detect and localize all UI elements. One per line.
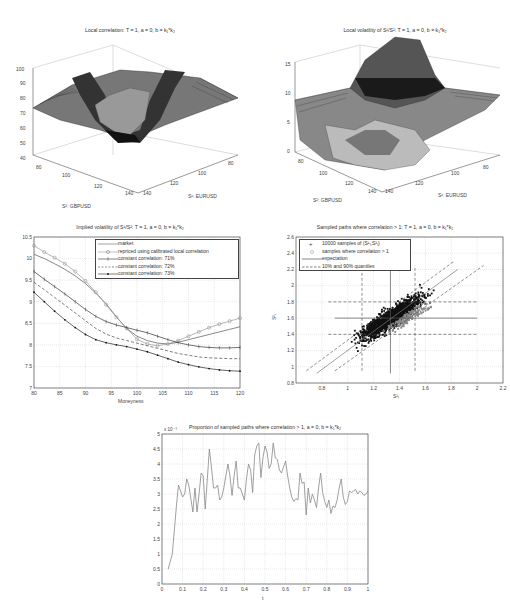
y-tick-label: 1.6 — [287, 315, 294, 321]
x-tick-80: 80 — [298, 158, 304, 164]
y-tick-label: 0.8 — [287, 380, 294, 386]
y-tick-label: 4 — [157, 461, 160, 467]
x-tick-label: 1.8 — [448, 385, 455, 391]
x-tick-label: 0.4 — [241, 586, 248, 592]
z-tick-60: 60 — [20, 125, 26, 131]
z-tick-80: 80 — [20, 95, 26, 101]
y-tick-label: 2 — [291, 282, 294, 288]
y-tick-label: 10 — [26, 255, 32, 261]
y-tick-80: 80 — [228, 160, 234, 166]
x-axis-label: Moneyness — [118, 398, 144, 404]
y-tick-label: 3 — [157, 491, 160, 497]
x-tick-label: 0.2 — [200, 586, 207, 592]
x-tick-140: 140 — [368, 188, 376, 194]
y-tick-80: 80 — [483, 164, 489, 170]
z-tick-70: 70 — [20, 110, 26, 116]
y-tick-label: 1.4 — [287, 331, 294, 337]
local-volatility-panel: Local volatility of S¹/S²: T = 1, a = 0,… — [255, 0, 510, 215]
x-tick-120: 120 — [345, 180, 353, 186]
x-tick-label: 105 — [159, 390, 168, 396]
y-tick-120: 120 — [415, 180, 423, 186]
proportion-panel: Proportion of sampled paths where correl… — [130, 410, 390, 610]
legend-item-expectation: expectation — [300, 255, 410, 263]
y-tick-label: 8 — [29, 342, 32, 348]
legend-item-const-71: constant correlation: 71% — [96, 255, 238, 263]
y-tick-label: 1 — [157, 551, 160, 557]
y-tick-label: 0 — [157, 581, 160, 587]
sampled-paths-panel: Sampled paths where correlation > 1: T =… — [255, 215, 510, 410]
y-tick-label: 2.5 — [153, 506, 160, 512]
x-tick-label: 85 — [57, 390, 63, 396]
svg-text:+: + — [309, 241, 313, 247]
y-tick-label: 7 — [29, 385, 32, 391]
x-tick-120: 120 — [94, 183, 102, 189]
x-tick-label: 1.4 — [396, 385, 403, 391]
x-tick-100: 100 — [62, 172, 70, 178]
proportion-line-chart: 00.10.20.30.40.50.60.70.80.9100.511.522.… — [130, 410, 390, 610]
y-tick-label: 7.5 — [25, 363, 32, 369]
x-tick-label: 0 — [161, 586, 164, 592]
x-tick-140: 140 — [125, 190, 133, 196]
y-tick-label: 9 — [29, 299, 32, 305]
y-tick-label: 8.5 — [25, 320, 32, 326]
x-tick-label: 120 — [236, 390, 245, 396]
y-tick-label: 2.6 — [287, 234, 294, 240]
local-correlation-panel: Local correlation: T = 1, a = 0, b = k₁*… — [0, 0, 255, 215]
y-tick-label: 1.2 — [287, 347, 294, 353]
x-tick-label: 1 — [346, 385, 349, 391]
y-axis-label: S¹: EURUSD — [438, 192, 467, 198]
x-tick-label: 1.2 — [370, 385, 377, 391]
y-tick-label: 1.5 — [153, 536, 160, 542]
legend-item-const-72: constant correlation: 72% — [96, 263, 238, 271]
x-axis-label: S²: GBPUSD — [313, 197, 342, 203]
x-tick-label: 0.9 — [344, 586, 351, 592]
local-correlation-surface-plot — [0, 0, 255, 215]
y-tick-label: 2.4 — [287, 250, 294, 256]
y-tick-label: 0.5 — [153, 566, 160, 572]
scatter-legend: +10000 samples of (S¹ₜ,S²ₜ) samples wher… — [299, 239, 411, 271]
legend-item-repriced: repriced using calibrated local correlat… — [96, 248, 238, 256]
z-tick-90: 90 — [20, 80, 26, 86]
y-tick-100: 100 — [198, 170, 206, 176]
legend-item-samples: +10000 samples of (S¹ₜ,S²ₜ) — [300, 240, 410, 248]
z-tick-5: 5 — [287, 119, 290, 125]
y-tick-120: 120 — [170, 180, 178, 186]
x-tick-label: 1.6 — [422, 385, 429, 391]
z-tick-10: 10 — [285, 90, 291, 96]
x-tick-100: 100 — [319, 170, 327, 176]
legend-item-corr-gt-1: samples where correlation > 1 — [300, 248, 410, 256]
x-axis-label: t — [262, 595, 263, 601]
x-tick-label: 90 — [83, 390, 89, 396]
z-tick-40: 40 — [20, 155, 26, 161]
x-tick-label: 0.6 — [282, 586, 289, 592]
z-tick-0: 0 — [287, 148, 290, 154]
x-tick-label: 0.5 — [262, 586, 269, 592]
y-tick-label: 2.2 — [287, 266, 294, 272]
x-tick-label: 80 — [31, 390, 37, 396]
y-tick-label: 5 — [157, 431, 160, 437]
x-tick-label: 0.8 — [318, 385, 325, 391]
legend-item-market: market — [96, 240, 238, 248]
y-tick-label: 2 — [157, 521, 160, 527]
y-tick-label: 1.8 — [287, 299, 294, 305]
x-tick-label: 0.7 — [303, 586, 310, 592]
x-axis-label: S¹ₜ — [393, 393, 399, 399]
x-tick-label: 2 — [476, 385, 479, 391]
implied-vol-legend: market repriced using calibrated local c… — [95, 239, 239, 279]
z-tick-100: 100 — [16, 66, 24, 72]
legend-item-const-73: constant correlation: 73% — [96, 270, 238, 278]
y-axis-label: S²ₜ — [271, 314, 277, 320]
x-tick-label: 1 — [367, 586, 370, 592]
y-tick-label: 3.5 — [153, 476, 160, 482]
x-tick-label: 0.8 — [323, 586, 330, 592]
x-tick-label: 100 — [133, 390, 142, 396]
x-tick-80: 80 — [36, 164, 42, 170]
x-tick-label: 2.2 — [500, 385, 507, 391]
x-tick-label: 0.3 — [220, 586, 227, 592]
y-tick-140: 140 — [143, 190, 151, 196]
y-tick-label: 10.5 — [22, 234, 32, 240]
z-tick-50: 50 — [20, 140, 26, 146]
x-tick-label: 115 — [210, 390, 218, 396]
y-tick-label: 9.5 — [25, 277, 32, 283]
x-tick-label: 95 — [108, 390, 114, 396]
